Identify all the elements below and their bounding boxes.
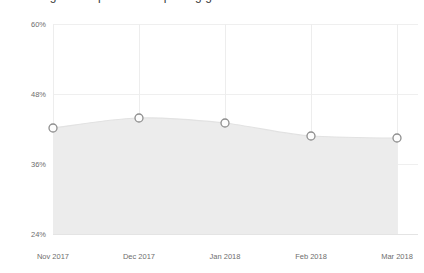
y-tick-label-48: 48% [31, 90, 46, 99]
series-area-fill [53, 118, 397, 234]
data-point-feb-2018[interactable] [307, 132, 315, 140]
x-axis-tick-labels: Nov 2017 Dec 2017 Jan 2018 Feb 2018 Mar … [37, 252, 413, 261]
x-tick-label-jan-2018: Jan 2018 [210, 252, 241, 261]
y-axis-tick-labels: 60% 48% 36% 24% [31, 20, 46, 239]
data-point-jan-2018[interactable] [221, 119, 229, 127]
y-tick-label-36: 36% [31, 160, 46, 169]
data-point-mar-2018[interactable] [393, 134, 401, 142]
data-point-dec-2017[interactable] [135, 114, 143, 122]
x-tick-label-dec-2017: Dec 2017 [123, 252, 155, 261]
chart-container: Percentage of respondents reporting grow… [0, 0, 424, 273]
x-tick-label-feb-2018: Feb 2018 [295, 252, 327, 261]
y-tick-label-60: 60% [31, 20, 46, 29]
x-tick-label-nov-2017: Nov 2017 [37, 252, 69, 261]
x-tick-label-mar-2018: Mar 2018 [381, 252, 413, 261]
area-chart: 60% 48% 36% 24% Nov 2017 Dec 2017 Jan 20… [0, 0, 424, 273]
y-tick-label-24: 24% [31, 230, 46, 239]
data-point-nov-2017[interactable] [49, 124, 57, 132]
